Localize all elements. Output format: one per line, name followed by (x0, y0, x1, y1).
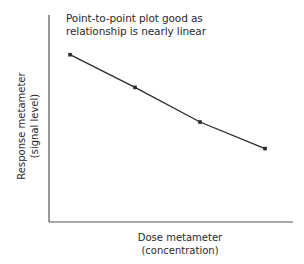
y-axis-label-line-1: Response metameter (16, 56, 29, 196)
data-points (68, 53, 267, 151)
plot-annotation: Point-to-point plot good as relationship… (66, 12, 206, 37)
x-axis-label: Dose metameter (concentration) (110, 232, 250, 257)
data-point-marker (263, 147, 267, 151)
annotation-line-2: relationship is nearly linear (66, 25, 206, 38)
annotation-line-1: Point-to-point plot good as (66, 12, 206, 25)
x-axis-label-line-1: Dose metameter (110, 232, 250, 245)
data-point-marker (198, 120, 202, 124)
y-axis-label: Response metameter (signal level) (16, 56, 41, 196)
chart-canvas (0, 0, 304, 264)
data-line (70, 55, 265, 149)
data-point-marker (68, 53, 72, 57)
x-axis-label-line-2: (concentration) (110, 245, 250, 258)
data-point-marker (133, 86, 137, 90)
y-axis-label-line-2: (signal level) (28, 56, 41, 196)
